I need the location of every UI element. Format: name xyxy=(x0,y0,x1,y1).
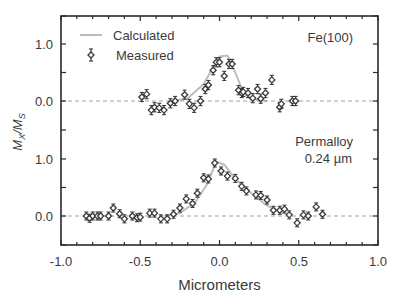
x-tick-label: 0.5 xyxy=(290,254,308,269)
x-axis-label: Micrometers xyxy=(178,276,261,293)
panel-label-fe100: Fe(100) xyxy=(307,30,353,45)
measured-point xyxy=(255,84,261,93)
measured-point xyxy=(269,75,275,84)
measured-point xyxy=(212,159,218,167)
measured-point xyxy=(305,212,311,220)
legend-measured-swatch xyxy=(88,49,94,61)
measured-point xyxy=(197,96,203,105)
measured-point xyxy=(320,210,326,218)
legend: Calculated Measured xyxy=(80,28,174,63)
x-tick-label: -0.5 xyxy=(129,254,151,269)
chart: -1.0 -0.5 0.0 0.5 1.0 Micrometers 1.0 0.… xyxy=(0,0,401,302)
y-tick-label: 0.0 xyxy=(35,209,53,224)
x-tick-label: 0.0 xyxy=(210,254,228,269)
measured-point xyxy=(293,96,299,105)
measured-point xyxy=(286,211,292,219)
x-tick-label: 1.0 xyxy=(369,254,387,269)
measured-point xyxy=(183,195,189,203)
y-tick-label: 0.0 xyxy=(35,94,53,109)
panel-label-permalloy: Permalloy xyxy=(295,134,353,149)
y-tick-label: 1.0 xyxy=(35,37,53,52)
measured-point xyxy=(262,88,268,97)
svg-text:MX/MS: MX/MS xyxy=(10,113,27,150)
y-axis-label: MX/MS xyxy=(10,113,27,150)
y-tick-label: 1.0 xyxy=(35,152,53,167)
legend-measured-label: Measured xyxy=(116,48,174,63)
plot-frame xyxy=(61,16,378,245)
measured-point xyxy=(106,212,112,220)
panel-label-thickness: 0.24 µm xyxy=(305,151,352,166)
measured-point xyxy=(224,172,230,180)
measured-point xyxy=(313,203,319,211)
measured-point xyxy=(245,88,251,97)
measured-point xyxy=(221,71,227,80)
measured-point xyxy=(117,210,123,218)
measured-point xyxy=(218,167,224,175)
ticks xyxy=(61,16,378,245)
measured-point xyxy=(171,210,177,218)
measured-point xyxy=(258,94,264,103)
calc-lines xyxy=(164,55,283,216)
x-tick-label: -1.0 xyxy=(50,254,72,269)
measured-point xyxy=(294,219,300,227)
legend-calculated-label: Calculated xyxy=(113,28,174,43)
measured-point xyxy=(110,204,116,212)
